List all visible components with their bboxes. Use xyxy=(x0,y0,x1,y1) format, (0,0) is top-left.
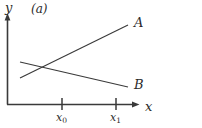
curve-b-line xyxy=(20,62,128,87)
tick-label-x1: x1 xyxy=(110,112,121,123)
tick-label-x0: x0 xyxy=(56,112,67,123)
curve-b-label: B xyxy=(134,78,144,91)
curve-a-label: A xyxy=(134,16,143,29)
tick-label-x0-subscript: 0 xyxy=(62,116,67,125)
x-axis-label: x xyxy=(145,100,152,113)
tick-label-x1-subscript: 1 xyxy=(116,116,121,125)
x-axis-arrowhead xyxy=(132,102,140,108)
figure-container: y x A B (a) x0 x1 xyxy=(0,0,202,128)
plot-canvas xyxy=(0,0,202,128)
curve-a-line xyxy=(20,25,128,78)
y-axis-label: y xyxy=(5,1,12,14)
figure-caption: (a) xyxy=(31,3,48,15)
